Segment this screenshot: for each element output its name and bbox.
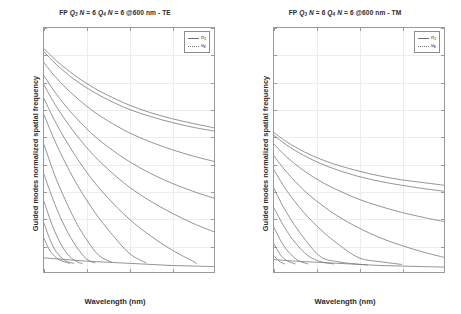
legend-line-swatch <box>188 38 199 39</box>
panel-title-te: FP Q3 N = 6 Q4 N = 6 @600 nm - TE <box>0 9 230 17</box>
figure-canvas: FP Q3 N = 6 Q4 N = 6 @600 nm - TEGuided … <box>0 0 461 314</box>
curve-mode-3 <box>44 76 214 199</box>
legend-line-swatch <box>418 46 429 47</box>
legend-entry-label: n1 <box>201 35 206 42</box>
mode-dispersion-curves <box>274 28 444 272</box>
legend-entry-label: νE <box>201 43 206 50</box>
curve-mode-4 <box>274 170 402 264</box>
plot-panel-tm: FP Q3 N = 6 Q4 N = 6 @600 nm - TMGuided … <box>230 0 460 314</box>
curve-mode-0 <box>274 133 444 186</box>
plot-area-te: 1.51.551.61.651.71.751.81.851.91.9540050… <box>43 27 215 273</box>
mode-dispersion-curves <box>44 28 214 272</box>
legend-box[interactable]: n1νE <box>184 31 210 53</box>
curve-mode-8 <box>44 174 95 262</box>
legend-entry-0: n1 <box>418 34 436 42</box>
legend-line-swatch <box>418 38 429 39</box>
curve-mode-7 <box>274 228 308 264</box>
curve-mode-2 <box>274 144 444 222</box>
legend-box[interactable]: n1νE <box>414 31 440 53</box>
legend-entry-label: n1 <box>431 35 436 42</box>
legend-line-swatch <box>188 46 199 47</box>
curve-mode-10 <box>44 223 74 263</box>
curve-mode-9 <box>44 202 82 264</box>
plot-area-tm: 1.51.551.61.651.71.751.81.851.91.9540050… <box>273 27 445 273</box>
y-axis-label: Guided modes normalized spatial frequenc… <box>261 41 270 267</box>
panel-title-tm: FP Q3 N = 6 Q4 N = 6 @600 nm - TM <box>230 9 460 17</box>
curve-envelope-vE <box>274 260 444 268</box>
curve-mode-1 <box>274 135 444 191</box>
plot-panel-te: FP Q3 N = 6 Q4 N = 6 @600 nm - TEGuided … <box>0 0 230 314</box>
y-axis-label: Guided modes normalized spatial frequenc… <box>31 41 40 267</box>
x-axis-label: Wavelength (nm) <box>230 297 460 306</box>
x-axis-label: Wavelength (nm) <box>0 297 230 306</box>
curve-mode-0 <box>44 49 214 128</box>
legend-entry-label: νE <box>431 43 436 50</box>
legend-entry-0: n1 <box>188 34 206 42</box>
curve-mode-6 <box>274 208 334 264</box>
legend-entry-1: νE <box>418 42 436 50</box>
legend-entry-1: νE <box>188 42 206 50</box>
curve-mode-5 <box>274 188 368 264</box>
